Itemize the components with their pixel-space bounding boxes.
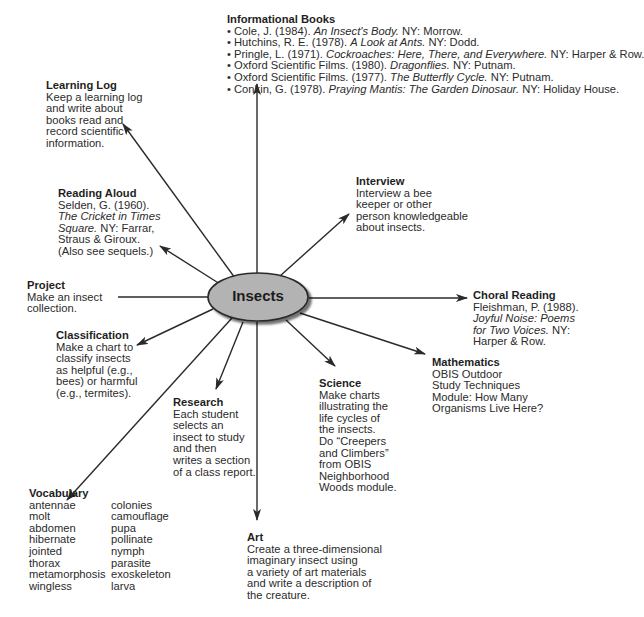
node-choral-reading: Choral Reading Fleishman, P. (1988). Joy… [473,290,579,348]
node-vocabulary: Vocabulary antennae molt abdomen hiberna… [29,488,193,592]
node-research: Research Each student selects an insect … [173,397,256,478]
vocabulary-columns: antennae molt abdomen hibernate jointed … [29,500,193,593]
center-topic-label: Insects [208,287,308,304]
node-text: about insects. [356,222,468,234]
node-science: Science Make charts illustrating the lif… [319,378,397,494]
vocab-word: nymph [111,546,193,558]
node-title: Learning Log [46,80,142,92]
node-text: Organisms Live Here? [432,403,543,415]
node-text: (e.g., termites). [56,388,137,400]
arrow-classification [137,309,213,345]
node-text: information. [46,138,142,150]
vocab-word: wingless [29,581,111,593]
book-item: • Conkin, G. (1978). Praying Mantis: The… [227,84,644,96]
arrow-interview [280,214,349,276]
node-interview: Interview Interview a bee keeper or othe… [356,176,468,234]
node-text: collection. [27,303,102,315]
vocab-word: metamorphosis [29,569,111,581]
node-title: Classification [56,330,137,342]
node-text: Woods module. [319,482,397,494]
node-title: Mathematics [432,357,543,369]
node-classification: Classification Make a chart to classify … [56,330,137,400]
node-text: writes a section [173,455,256,467]
node-text: of a class report. [173,467,256,479]
node-title: Interview [356,176,468,188]
node-title: Project [27,280,102,292]
node-text: Harper & Row. [473,336,579,348]
vocab-word: larva [111,581,193,593]
node-informational-books: Informational Books • Cole, J. (1984). A… [227,14,644,95]
node-reading-aloud: Reading Aloud Selden, G. (1960). The Cri… [58,188,160,258]
node-title: Research [173,397,256,409]
arrow-reading-aloud [160,246,220,284]
node-art: Art Create a three-dimensional imaginary… [247,532,382,602]
vocabulary-column-2: colonies camouflage pupa pollinate nymph… [111,500,193,593]
vocabulary-column-1: antennae molt abdomen hibernate jointed … [29,500,111,593]
node-title: Choral Reading [473,290,579,302]
arrow-science [286,320,335,366]
node-mathematics: Mathematics OBIS Outdoor Study Technique… [432,357,543,415]
node-text: (Also see sequels.) [58,246,160,258]
node-title: Vocabulary [29,488,193,500]
node-text: from OBIS [319,459,397,471]
node-text: Do “Creepers [319,436,397,448]
vocab-word: jointed [29,546,111,558]
node-learning-log: Learning Log Keep a learning log and wri… [46,80,142,150]
node-project: Project Make an insect collection. [27,280,102,315]
node-text: the creature. [247,590,382,602]
arrow-mathematics [300,313,425,354]
node-title: Science [319,378,397,390]
node-title: Reading Aloud [58,188,160,200]
vocab-word: exoskeleton [111,569,193,581]
node-title: Art [247,532,382,544]
